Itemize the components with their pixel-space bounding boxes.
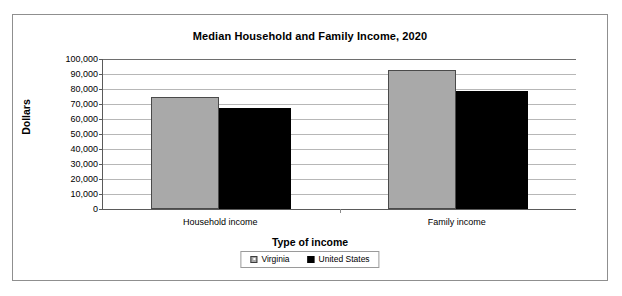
bar-virginia-family-income — [388, 70, 456, 209]
legend-label: United States — [319, 254, 370, 264]
chart-title: Median Household and Family Income, 2020 — [13, 30, 607, 42]
y-axis-tick-label: 0 — [43, 205, 98, 214]
x-axis-category-label: Household income — [183, 217, 258, 227]
y-axis-tick-label: 80,000 — [43, 85, 98, 94]
y-axis-tick-label: 60,000 — [43, 115, 98, 124]
gray-square-icon — [250, 256, 257, 263]
y-axis-tick-mark — [99, 164, 103, 165]
y-axis-title: Dollars — [20, 87, 32, 147]
bar-virginia-household-income — [151, 97, 219, 209]
y-axis-tick-mark — [99, 119, 103, 120]
gridline — [103, 74, 576, 75]
y-axis-tick-label: 10,000 — [43, 190, 98, 199]
y-axis-tick-label: 70,000 — [43, 100, 98, 109]
x-axis-title: Type of income — [13, 236, 607, 248]
y-axis-tick-label: 90,000 — [43, 70, 98, 79]
x-axis-category-label: Family income — [428, 217, 486, 227]
chart-frame: Median Household and Family Income, 2020… — [12, 14, 608, 281]
chart-legend: VirginiaUnited States — [240, 251, 379, 268]
y-axis-tick-mark — [99, 89, 103, 90]
y-axis-tick-mark — [99, 179, 103, 180]
legend-entry: United States — [308, 254, 370, 264]
gridline — [103, 89, 576, 90]
bar-united-states-household-income — [219, 108, 291, 209]
bar-united-states-family-income — [456, 91, 528, 209]
y-axis-tick-labels: 100,00090,00080,00070,00060,00050,00040,… — [43, 53, 98, 203]
y-axis-tick-mark — [99, 194, 103, 195]
y-axis-tick-label: 50,000 — [43, 130, 98, 139]
y-axis-tick-label: 30,000 — [43, 160, 98, 169]
y-axis-tick-mark — [99, 209, 103, 210]
y-axis-tick-label: 100,000 — [43, 55, 98, 64]
legend-label: Virginia — [261, 254, 289, 264]
plot-area — [102, 59, 576, 210]
y-axis-tick-mark — [99, 59, 103, 60]
x-axis-tick-mark — [340, 209, 341, 213]
legend-entry: Virginia — [250, 254, 289, 264]
gridline — [103, 59, 576, 60]
y-axis-tick-mark — [99, 149, 103, 150]
y-axis-tick-label: 40,000 — [43, 145, 98, 154]
y-axis-tick-label: 20,000 — [43, 175, 98, 184]
y-axis-tick-mark — [99, 134, 103, 135]
y-axis-tick-mark — [99, 104, 103, 105]
black-square-icon — [308, 256, 315, 263]
y-axis-tick-mark — [99, 74, 103, 75]
